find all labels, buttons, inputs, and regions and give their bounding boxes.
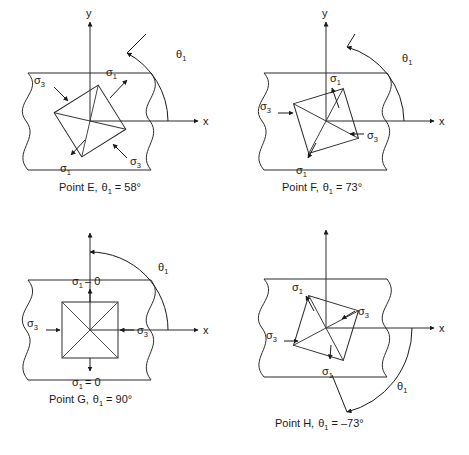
sigma3-label-h-right: σ3 <box>358 305 369 320</box>
sigma3-arrow-h-upper-right <box>342 311 355 319</box>
theta-label-e: θ1 <box>176 48 186 63</box>
caption-g: Point G,θ1= 90° <box>49 393 132 408</box>
theta-arc-h <box>332 328 412 412</box>
sigma1-label-e-lower: σ1 <box>60 162 71 177</box>
x-axis-label: x <box>439 115 445 127</box>
sigma3-label-e-left: σ3 <box>34 74 45 89</box>
sigma1-label-h-upper: σ1 <box>292 281 303 296</box>
sigma1-arrow-f-lower <box>308 143 316 158</box>
theta-label-g: θ1 <box>158 261 168 276</box>
sigma3-label-f-left: σ3 <box>260 100 271 115</box>
sigma3-arrow-e-right <box>113 144 127 158</box>
caption-h: Point H,θ1= –73° <box>275 417 364 432</box>
sigma1-label-f-upper: σ1 <box>330 72 341 87</box>
caption-e: Point E,θ1= 58° <box>59 181 141 196</box>
theta-arc-f <box>347 34 404 121</box>
caption-f: Point F,θ1= 73° <box>282 181 362 196</box>
theta-arc-e <box>127 34 168 121</box>
sigma1-label-h-lower: σ1 <box>322 365 333 380</box>
sigma3-arrow-e-left <box>54 87 68 101</box>
x-axis-label: x <box>203 115 209 127</box>
panel-point-g: x θ1 σ1– 0 σ3 <box>0 227 235 455</box>
sigma1-label-g-bottom: σ1= 0 <box>72 376 101 391</box>
sigma3-label-g-left: σ3 <box>27 317 38 332</box>
sigma3-label-h-left: σ3 <box>266 329 277 344</box>
theta-label-h: θ1 <box>397 380 407 395</box>
sigma1-label-g-top: σ1– 0 <box>72 275 100 290</box>
x-axis-label: x <box>203 324 209 336</box>
sigma3-label-g-right: σ3 <box>137 324 148 339</box>
sigma1-label-e-upper: σ1 <box>106 66 117 81</box>
panel-point-f: x y θ1 σ1 σ3 σ1 <box>234 0 469 228</box>
sigma1-arrow-e-upper <box>110 80 127 98</box>
sigma3-label-e-right: σ3 <box>130 155 141 170</box>
panel-point-h: x θ1 σ1 σ3 σ3 <box>234 227 469 455</box>
stress-element-figure: x y θ1 σ1 σ3 <box>0 0 469 455</box>
y-axis-label: y <box>86 7 92 19</box>
sigma1-label-f-lower: σ1 <box>296 164 307 179</box>
x-axis-label: x <box>439 322 445 334</box>
axes-g <box>90 233 198 330</box>
theta-label-f: θ1 <box>402 52 412 67</box>
axes-f <box>326 22 434 121</box>
sigma3-label-f-right: σ3 <box>367 129 378 144</box>
panel-point-e: x y θ1 σ1 σ3 <box>0 0 235 228</box>
y-axis-label: y <box>322 7 328 19</box>
